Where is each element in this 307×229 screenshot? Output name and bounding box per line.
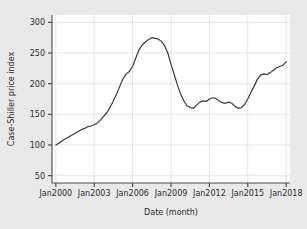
x-tick-label: Jan2015 xyxy=(230,189,264,198)
y-tick-label: 200 xyxy=(30,80,45,89)
y-tick-label: 250 xyxy=(30,49,45,58)
x-tick-label: Jan2006 xyxy=(115,189,149,198)
x-tick-label: Jan2003 xyxy=(77,189,111,198)
y-tick-label: 300 xyxy=(30,18,45,27)
x-axis-title: Date (month) xyxy=(144,208,198,217)
x-tick-label: Jan2012 xyxy=(192,189,226,198)
x-tick-label: Jan2009 xyxy=(154,189,188,198)
y-axis-title: Case-Shiller price index xyxy=(7,52,16,147)
y-tick-label: 150 xyxy=(30,110,45,119)
chart-figure: 50100150200250300 Jan2000Jan2003Jan2006J… xyxy=(0,0,307,229)
case-shiller-line-chart: 50100150200250300 Jan2000Jan2003Jan2006J… xyxy=(0,0,307,229)
x-tick-label: Jan2018 xyxy=(269,189,303,198)
y-tick-label: 100 xyxy=(30,141,45,150)
x-tick-label: Jan2000 xyxy=(38,189,72,198)
y-tick-label: 50 xyxy=(35,172,45,181)
